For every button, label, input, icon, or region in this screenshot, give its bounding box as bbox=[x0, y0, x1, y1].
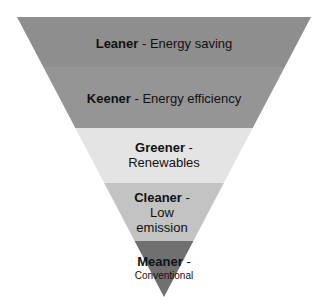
level-leaner-desc: Energy saving bbox=[150, 36, 232, 51]
level-keener-sep: - bbox=[131, 91, 143, 106]
level-keener-desc: Energy efficiency bbox=[142, 91, 241, 106]
level-greener-sep: - bbox=[185, 140, 193, 155]
level-cleaner-desc: Low emission bbox=[132, 206, 192, 236]
level-cleaner-sep: - bbox=[182, 190, 190, 205]
level-greener-desc: Renewables bbox=[0, 156, 328, 171]
level-keener-label: Keener - Energy efficiency bbox=[0, 92, 328, 107]
level-meaner-sep: - bbox=[183, 254, 191, 269]
level-greener-key: Greener bbox=[135, 140, 185, 155]
level-leaner-key: Leaner bbox=[96, 36, 139, 51]
level-leaner-label: Leaner - Energy saving bbox=[0, 37, 328, 52]
level-meaner-key: Meaner bbox=[137, 254, 183, 269]
level-leaner-sep: - bbox=[138, 36, 150, 51]
level-greener-label: Greener - Renewables bbox=[0, 141, 328, 171]
level-cleaner-label: Cleaner - Low emission bbox=[0, 191, 326, 236]
level-meaner-desc: Conventional bbox=[0, 270, 328, 282]
level-keener-key: Keener bbox=[87, 91, 131, 106]
level-meaner-label: Meaner - Conventional bbox=[0, 255, 328, 281]
level-cleaner-key: Cleaner bbox=[134, 190, 182, 205]
